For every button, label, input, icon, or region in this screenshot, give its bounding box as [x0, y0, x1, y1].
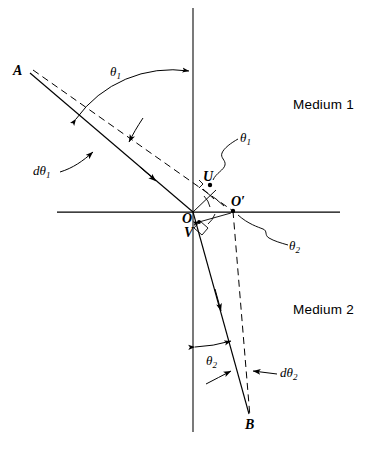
dtheta2-leader-group — [206, 371, 277, 384]
theta1-at-u-subscript: 1 — [246, 137, 251, 147]
incident-ray-solid — [30, 73, 193, 212]
point-label-b: B — [245, 418, 254, 432]
medium-2-label: Medium 2 — [293, 303, 354, 317]
dtheta2-label: dθ2 — [280, 366, 297, 382]
theta2-at-oprime-squiggle-leader — [238, 215, 288, 245]
point-label-o-prime: O′ — [231, 195, 245, 209]
refracted-ray-solid — [193, 212, 249, 414]
dtheta2-subscript: 2 — [293, 372, 298, 382]
theta1-at-u-label: θ1 — [240, 131, 251, 147]
point-label-a: A — [13, 64, 22, 78]
incident-rays-group — [30, 70, 233, 212]
point-label-u: U — [203, 170, 213, 184]
refracted-rays-group — [193, 211, 250, 417]
o-prime-point-dot — [231, 209, 235, 213]
dtheta2-leader-line — [253, 371, 277, 374]
theta2-refracted-subscript: 2 — [212, 360, 217, 370]
o-prime-tick — [217, 200, 224, 206]
medium-1-label: Medium 1 — [293, 98, 354, 112]
o-prime-point-group — [217, 200, 288, 245]
theta1-incident-subscript: 1 — [116, 71, 121, 81]
point-label-v: V — [184, 226, 193, 240]
point-label-o: O — [182, 212, 192, 226]
theta1-incident-label: θ1 — [110, 65, 121, 81]
theta2-at-oprime-label: θ2 — [289, 239, 300, 255]
dtheta1-leader-group — [60, 152, 93, 172]
incident-ray-dashed-perturbed — [33, 70, 233, 211]
origin-angle-marks-group — [194, 196, 231, 235]
dtheta1-subscript: 1 — [46, 170, 51, 180]
theta1-incident-arc — [76, 70, 189, 119]
incident-ray-direction-arrow — [140, 167, 156, 181]
theta2-refracted-label: θ2 — [206, 354, 217, 370]
theta2-refracted-arrow-group — [195, 341, 231, 347]
dtheta2-gap-arrow — [206, 371, 231, 384]
dtheta1-label: dθ1 — [33, 164, 50, 180]
theta1-incident-arc-group — [76, 70, 189, 119]
theta1-small-arc-at-origin — [204, 196, 210, 207]
u-tick-line — [193, 190, 216, 212]
axes-group — [57, 8, 340, 432]
theta1-at-u-squiggle-leader — [213, 139, 238, 180]
refraction-diagram: A B O O′ U V Medium 1 Medium 2 θ1 θ1 dθ1… — [0, 0, 375, 449]
dtheta1-gap-arrow — [129, 118, 143, 142]
dtheta1-leader-line — [60, 152, 93, 172]
refracted-ray-direction-arrow — [215, 289, 221, 311]
theta2-refracted-double-arrow — [195, 341, 231, 347]
dtheta1-gap-arrow-group — [129, 118, 143, 142]
theta2-at-oprime-subscript: 2 — [295, 245, 300, 255]
